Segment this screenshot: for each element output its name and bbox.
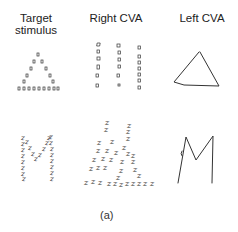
left-cva-triangle-drawing bbox=[174, 52, 219, 86]
figure-drawings: z z z z z z z z z z z z z z z z z z z z … bbox=[0, 0, 238, 232]
svg-text:z: z bbox=[130, 179, 136, 188]
left-cva-m-drawing bbox=[178, 136, 213, 183]
svg-text:z: z bbox=[136, 179, 142, 188]
svg-text:z: z bbox=[109, 137, 115, 146]
svg-text:z: z bbox=[119, 157, 125, 166]
figure-caption: (a) bbox=[100, 209, 113, 221]
svg-text:z: z bbox=[124, 179, 130, 188]
svg-text:z: z bbox=[125, 134, 131, 143]
right-cva-z-cluster: z z z z z z z z z z z z z z z z z z z z … bbox=[83, 118, 155, 189]
right-cva-square-columns bbox=[96, 43, 141, 89]
svg-text:z: z bbox=[21, 175, 26, 183]
svg-text:z: z bbox=[102, 163, 108, 172]
svg-text:z: z bbox=[97, 178, 103, 187]
svg-text:z: z bbox=[83, 178, 89, 187]
svg-text:z: z bbox=[112, 179, 118, 188]
svg-text:z: z bbox=[118, 180, 124, 189]
svg-text:z: z bbox=[149, 179, 155, 188]
svg-text:z: z bbox=[103, 125, 109, 134]
svg-text:z: z bbox=[88, 164, 94, 173]
svg-text:z: z bbox=[108, 155, 114, 164]
svg-text:z: z bbox=[95, 163, 101, 172]
svg-text:z: z bbox=[90, 177, 96, 186]
svg-text:z: z bbox=[113, 148, 119, 157]
svg-text:z: z bbox=[100, 154, 106, 163]
target-m-of-zs: z z z z z z z z z z z z z z z z z z z z … bbox=[20, 133, 54, 183]
svg-text:z: z bbox=[49, 175, 54, 183]
target-triangle-of-squares bbox=[18, 53, 59, 90]
svg-text:z: z bbox=[106, 179, 112, 188]
svg-text:z: z bbox=[142, 179, 148, 188]
